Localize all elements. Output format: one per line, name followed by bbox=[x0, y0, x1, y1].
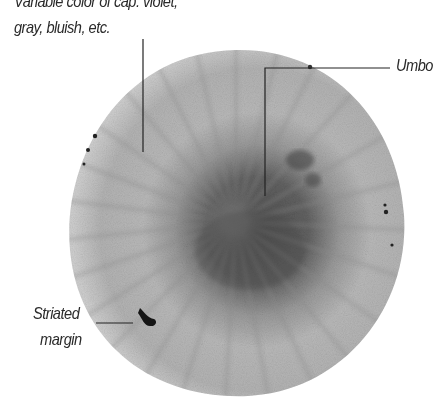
cap-color-label-line1: Variable color of cap: violet, bbox=[14, 0, 178, 12]
umbo-label: Umbo bbox=[396, 56, 433, 76]
mushroom-cap bbox=[60, 40, 412, 405]
striated-margin-label-line1: Striated bbox=[33, 304, 79, 324]
cap-color-label-line2: gray, bluish, etc. bbox=[14, 18, 110, 38]
striated-margin-label-line2: margin bbox=[40, 330, 82, 350]
